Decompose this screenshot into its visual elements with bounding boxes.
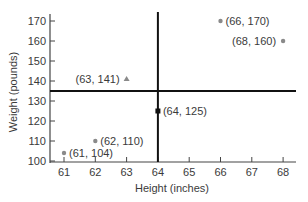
y-tick-label: 150 <box>28 55 46 67</box>
x-tick-label: 68 <box>277 166 289 178</box>
scatter-chart: 1001101201301401501601706162636465666768… <box>0 0 308 202</box>
y-tick-label: 140 <box>28 75 46 87</box>
point-label: (64, 125) <box>163 105 207 117</box>
point-label: (61, 104) <box>69 147 113 159</box>
y-tick-label: 160 <box>28 35 46 47</box>
point-label: (62, 110) <box>100 135 143 147</box>
x-axis-label: Height (inches) <box>135 182 209 194</box>
square-marker-icon <box>155 109 160 114</box>
data-points: (61, 104)(62, 110)(63, 141)(64, 125)(66,… <box>62 15 285 159</box>
y-tick-label: 120 <box>28 115 46 127</box>
circle-marker-icon <box>281 39 285 43</box>
x-tick-label: 61 <box>58 166 70 178</box>
circle-marker-icon <box>218 19 222 23</box>
x-tick-label: 67 <box>246 166 258 178</box>
point-label: (63, 141) <box>76 73 120 85</box>
y-tick-label: 130 <box>28 95 46 107</box>
y-tick-label: 100 <box>28 155 46 167</box>
circle-marker-icon <box>62 151 66 155</box>
x-tick-label: 64 <box>152 166 164 178</box>
y-tick-label: 170 <box>28 15 46 27</box>
y-tick-label: 110 <box>28 135 46 147</box>
point-label: (66, 170) <box>226 15 270 27</box>
point-label: (68, 160) <box>232 35 276 47</box>
y-axis-label: Weight (pounds) <box>7 52 19 133</box>
x-tick-label: 63 <box>120 166 132 178</box>
triangle-marker-icon <box>124 76 130 81</box>
circle-marker-icon <box>93 139 97 143</box>
x-tick-label: 66 <box>214 166 226 178</box>
x-tick-label: 65 <box>183 166 195 178</box>
x-tick-label: 62 <box>89 166 101 178</box>
